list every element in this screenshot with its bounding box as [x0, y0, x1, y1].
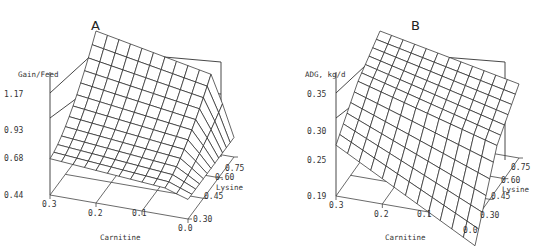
- surface-plot-a: A 1.17 0.93 0.68 0.44 Gain/Feed 0.3 0.2 …: [0, 0, 273, 251]
- z-axis-label: Gain/Feed: [18, 70, 59, 79]
- z-tick: 0.25: [307, 156, 326, 165]
- surface-plot-a-canvas: A 1.17 0.93 0.68 0.44 Gain/Feed 0.3 0.2 …: [0, 0, 273, 251]
- x-tick: 0.2: [88, 209, 103, 218]
- y-tick: 0.45: [204, 192, 223, 201]
- x-tick: 0.0: [178, 224, 193, 233]
- z-tick: 0.68: [4, 154, 23, 163]
- z-tick: 1.17: [4, 90, 23, 99]
- z-tick: 0.44: [4, 191, 23, 200]
- x-axis-label: Carnitine: [385, 233, 426, 242]
- surface-plot-b-canvas: B 0.35 0.30 0.25 0.19 ADG, kg/d 0.3 0.2 …: [273, 0, 547, 251]
- y-tick: 0.75: [225, 164, 244, 173]
- panel-a-title: A: [91, 18, 100, 33]
- y-tick: 0.60: [215, 173, 234, 182]
- z-tick: 0.30: [307, 127, 326, 136]
- y-tick: 0.30: [193, 215, 212, 224]
- x-tick: 0.2: [374, 210, 389, 219]
- y-tick: 0.60: [501, 176, 520, 185]
- z-tick: 0.35: [307, 90, 326, 99]
- y-tick: 0.75: [511, 163, 530, 172]
- x-tick: 0.1: [132, 209, 147, 218]
- plot-a-surface: [50, 31, 234, 199]
- x-tick: 0.3: [329, 201, 344, 210]
- y-axis-label: Lysine: [216, 183, 244, 192]
- x-tick: 0.0: [463, 226, 478, 235]
- surface-plot-b: B 0.35 0.30 0.25 0.19 ADG, kg/d 0.3 0.2 …: [273, 0, 547, 251]
- z-tick: 0.93: [4, 126, 23, 135]
- x-tick: 0.3: [42, 200, 57, 209]
- x-axis-label: Carnitine: [100, 233, 141, 242]
- panel-b-title: B: [411, 18, 420, 33]
- y-axis-label: Lysine: [502, 185, 530, 194]
- z-tick: 0.19: [307, 192, 326, 201]
- x-tick: 0.1: [417, 210, 432, 219]
- z-axis-label: ADG, kg/d: [305, 70, 346, 79]
- y-tick: 0.30: [480, 211, 499, 220]
